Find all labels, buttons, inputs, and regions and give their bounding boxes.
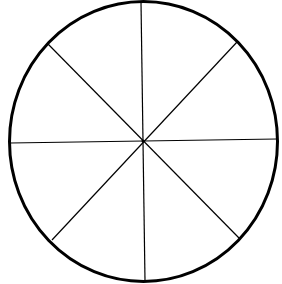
center-point [142, 140, 145, 143]
divided-circle-diagram [0, 0, 282, 284]
